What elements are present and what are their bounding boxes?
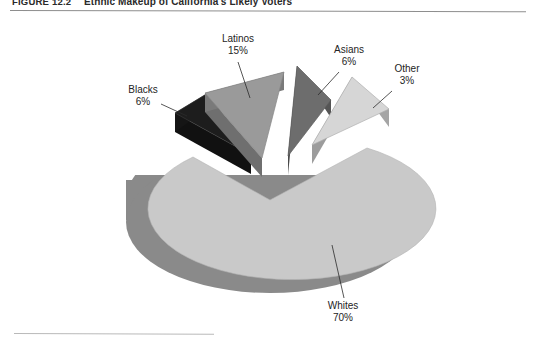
slice-label-asians-percent: 6%: [318, 56, 380, 68]
slice-label-blacks: Blacks 6%: [112, 84, 174, 108]
slice-label-latinos: Latinos 15%: [203, 33, 273, 57]
pie-slice-other: [312, 77, 389, 164]
pie-slice-whites: [126, 129, 436, 293]
slice-label-other-percent: 3%: [378, 75, 436, 87]
slice-label-other: Other 3%: [378, 63, 436, 87]
slice-label-whites: Whites 70%: [308, 300, 378, 324]
slice-label-asians: Asians 6%: [318, 44, 380, 68]
slice-label-blacks-percent: 6%: [112, 96, 174, 108]
slice-label-other-name: Other: [378, 63, 436, 75]
pie-slice-asians: [288, 66, 331, 175]
slice-label-whites-percent: 70%: [308, 312, 378, 324]
slice-label-latinos-name: Latinos: [203, 33, 273, 45]
figure-container: FIGURE 12.2 Ethnic Makeup of California'…: [0, 0, 533, 341]
slice-label-whites-name: Whites: [308, 300, 378, 312]
leader-line-asians: [318, 72, 339, 95]
slice-label-latinos-percent: 15%: [203, 45, 273, 57]
slice-label-blacks-name: Blacks: [112, 84, 174, 96]
slice-label-asians-name: Asians: [318, 44, 380, 56]
